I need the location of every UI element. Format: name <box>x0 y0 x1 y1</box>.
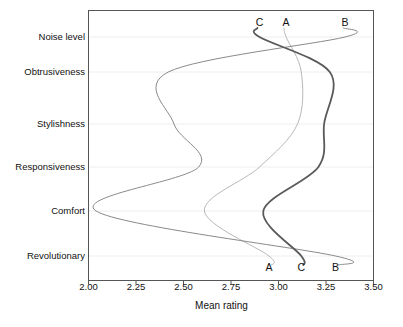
series-line-a <box>204 28 302 265</box>
parallel-coordinates-chart: Noise levelObtrusivenessStylishnessRespo… <box>0 0 403 327</box>
x-tick-label-2.00: 2.00 <box>79 282 98 292</box>
x-tick-label-2.25: 2.25 <box>127 282 146 292</box>
x-axis-title-text: Mean rating <box>195 300 248 311</box>
x-tick-label-3.00: 3.00 <box>269 282 288 292</box>
x-axis-title: Mean rating <box>0 300 403 311</box>
x-tick-label-3.50: 3.50 <box>364 282 383 292</box>
gridlines <box>89 37 374 256</box>
x-tick-label-2.75: 2.75 <box>222 282 241 292</box>
x-tick-label-3.25: 3.25 <box>317 282 336 292</box>
series-bottom-label-c: C <box>298 262 306 273</box>
series-top-label-c: C <box>256 17 264 28</box>
x-axis-tick-labels: 2.002.252.502.753.003.253.50 <box>0 282 403 298</box>
series-top-label-b: B <box>341 17 348 28</box>
series-bottom-label-b: B <box>332 262 339 273</box>
series-top-label-a: A <box>283 17 290 28</box>
series-bottom-label-a: A <box>265 262 272 273</box>
x-tick-label-2.50: 2.50 <box>174 282 193 292</box>
series-lines <box>93 28 357 265</box>
series-line-c <box>254 28 334 265</box>
plot-area <box>0 0 403 327</box>
plot-frame <box>89 11 374 281</box>
